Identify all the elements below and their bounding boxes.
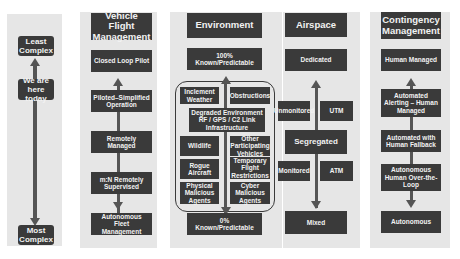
- env-physical-malicious: Physical Malicious Agents: [180, 182, 219, 204]
- airspace-unmonitored: Unmonitored: [278, 101, 310, 121]
- arrow-up-icon: [406, 78, 416, 86]
- airspace-mixed: Mixed: [285, 211, 347, 234]
- most-complex-label: Most Complex: [18, 225, 54, 245]
- column-header: Vehicle Flight Management: [91, 13, 152, 40]
- cm-autonomous: Autonomous: [381, 211, 441, 233]
- arrow-down-icon: [311, 201, 321, 209]
- env-100-known: 100% Known/Predictable: [187, 48, 262, 70]
- cm-autonomous-human-over-loop: Autonomous Human Over-the- Loop: [381, 164, 441, 191]
- arrow-up-icon: [113, 78, 123, 86]
- vfm-closed-loop-pilot: Closed Loop Pilot: [91, 50, 152, 72]
- env-cyber-malicious: Cyber Malicious Agents: [230, 182, 270, 204]
- arrow-up-icon: [311, 80, 321, 88]
- env-0-known: 0% Known/Predictable: [187, 213, 262, 235]
- column-header: Airspace: [285, 13, 347, 37]
- airspace-segregated: Segregated: [285, 130, 347, 154]
- vfm-autonomous-fleet: Autonomous Fleet Management: [91, 213, 152, 235]
- column-header: Contingency Management: [381, 12, 441, 39]
- cm-automated-human-fallback: Automated with Human Fallback: [381, 130, 441, 152]
- env-other-vehicles: Other Participating Vehicles: [230, 136, 270, 156]
- vfm-mn-remotely-supervised: m:N Remotely Supervised: [91, 172, 152, 194]
- we-are-here-today-label: We are here today: [18, 79, 54, 100]
- vfm-piloted-simplified: Piloted–Simplified Operation: [91, 90, 152, 112]
- arrow-down-icon: [113, 202, 123, 210]
- least-complex-label: Least Complex: [18, 36, 54, 56]
- env-temporary-flight-restrictions: Temporary Flight Restrictions: [230, 157, 270, 179]
- arrow-up-icon: [30, 58, 40, 66]
- column-header: Environment: [187, 13, 262, 38]
- env-inclement-weather: Inclement Weather: [180, 87, 219, 104]
- cm-automated-alerting: Automated Alerting – Human Managed: [381, 89, 441, 117]
- vfm-remotely-managed: Remotely Managed: [91, 131, 152, 153]
- env-degraded-environment: Degraded Environment RF / GPS / C2 Link …: [189, 108, 265, 132]
- env-obstructions: Obstructions: [230, 87, 270, 104]
- arrow-up-icon: [221, 76, 231, 84]
- arrow-down-icon: [406, 200, 416, 208]
- airspace-atm: ATM: [320, 161, 353, 181]
- env-rogue-aircraft: Rogue Aircraft: [180, 159, 219, 179]
- airspace-utm: UTM: [320, 101, 353, 121]
- env-arrow-shaft: [224, 80, 227, 213]
- env-wildlife: Wildlife: [180, 136, 219, 156]
- cm-human-managed: Human Managed: [381, 49, 441, 71]
- airspace-dedicated: Dedicated: [285, 49, 347, 71]
- airspace-monitored: Monitored: [278, 161, 310, 181]
